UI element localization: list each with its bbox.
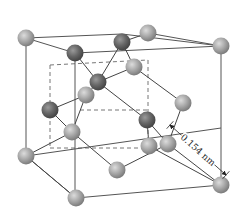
bond [98,82,147,120]
cube-edge [122,34,221,46]
light-atom [68,190,85,207]
crystal-structure-diagram: 0.154 nm [0,0,248,221]
dark-atom [139,112,156,129]
light-atom [78,87,95,104]
cube-edge [26,34,122,38]
dark-atom [114,34,131,51]
light-atom [213,38,230,55]
bond [134,67,183,103]
dark-atom [42,102,59,119]
dark-atom [67,45,84,62]
dark-atom [90,74,107,91]
light-atom [140,25,157,42]
light-atom [18,30,35,47]
light-atom [213,177,230,194]
bond [72,132,117,170]
light-atom [109,162,126,179]
atoms [18,25,230,207]
bond [26,156,76,198]
cube-edge [75,46,221,53]
light-atom [126,59,143,76]
light-atom [160,136,177,153]
light-atom [64,124,81,141]
light-atom [141,138,158,155]
light-atom [18,148,35,165]
cube-edge [76,185,221,198]
cube-edge [148,33,221,46]
bond-length-label: 0.154 nm [179,132,218,168]
light-atom [175,95,192,112]
